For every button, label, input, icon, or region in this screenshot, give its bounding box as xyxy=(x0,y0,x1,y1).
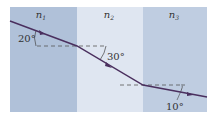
angle-label-10: 10° xyxy=(166,101,184,112)
angle-label-30: 30° xyxy=(107,51,125,62)
medium-n3-panel xyxy=(143,7,207,112)
medium-n1-panel xyxy=(10,7,77,112)
angle-label-20: 20° xyxy=(18,33,36,44)
refraction-diagram: n1 n2 n3 20° 30° 10° xyxy=(0,0,216,127)
